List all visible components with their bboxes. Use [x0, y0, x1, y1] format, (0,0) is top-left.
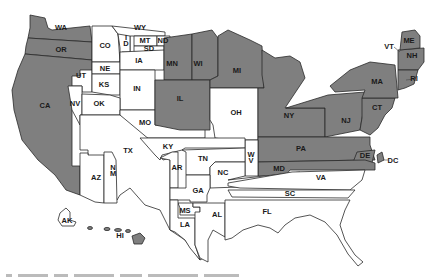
vt-leader-line — [394, 47, 400, 52]
label-az: AZ — [91, 173, 101, 182]
label-ms: MS — [179, 206, 190, 215]
label-la: LA — [180, 220, 191, 229]
label-wa: WA — [55, 23, 68, 32]
label-ak: AK — [62, 216, 73, 225]
label-de: DE — [360, 151, 370, 160]
label-mn: MN — [166, 59, 178, 68]
label-me: ME — [403, 36, 414, 45]
label-ar: AR — [172, 163, 183, 172]
state-fl[interactable] — [225, 200, 363, 266]
label-pa: PA — [296, 144, 306, 153]
state-ma[interactable] — [330, 62, 398, 98]
label-tn: TN — [198, 154, 208, 163]
label-wv-2: V — [248, 156, 253, 165]
state-wi[interactable] — [192, 30, 218, 80]
label-ia: IA — [135, 56, 143, 65]
label-co: CO — [99, 41, 110, 50]
label-tx: TX — [123, 146, 133, 155]
label-ct: CT — [372, 103, 382, 112]
label-oh: OH — [230, 108, 241, 117]
label-ny: NY — [284, 111, 294, 120]
label-dc: DC — [388, 156, 399, 165]
label-wi: WI — [193, 59, 202, 68]
label-mo: MO — [139, 118, 151, 127]
label-al: AL — [212, 210, 222, 219]
label-wy: WY — [134, 23, 146, 32]
label-va: VA — [316, 173, 326, 182]
label-mi: MI — [233, 66, 241, 75]
label-id-2: D — [123, 39, 129, 48]
label-fl: FL — [262, 207, 272, 216]
label-ks: KS — [99, 80, 109, 89]
label-in: IN — [133, 84, 141, 93]
label-ca: CA — [40, 101, 51, 110]
label-nh: NH — [407, 51, 418, 60]
label-nd: ND — [158, 36, 169, 45]
label-or: OR — [55, 45, 67, 54]
label-ne: NE — [100, 64, 110, 73]
label-ut: UT — [76, 71, 86, 80]
label-ri: RI — [410, 74, 418, 83]
label-sd: SD — [144, 44, 155, 53]
label-ma: MA — [371, 77, 383, 86]
label-ok: OK — [93, 99, 105, 108]
label-il: IL — [177, 94, 184, 103]
cropped-caption-fragment — [6, 265, 276, 273]
label-sc: SC — [285, 189, 296, 198]
state-ny[interactable] — [258, 50, 325, 137]
label-md: MD — [273, 164, 285, 173]
label-ga: GA — [192, 186, 204, 195]
label-ky: KY — [163, 142, 173, 151]
label-nj: NJ — [341, 116, 351, 125]
us-map: WA OR CA NV UT AZ N M CO WY I D MT ND SD… — [0, 0, 434, 277]
label-nc: NC — [218, 168, 229, 177]
state-mi[interactable] — [210, 30, 264, 88]
state-il[interactable] — [155, 80, 210, 130]
state-dc[interactable] — [377, 152, 384, 163]
label-nm-2: M — [110, 169, 116, 178]
label-vt: VT — [384, 42, 394, 51]
label-nv: NV — [70, 99, 80, 108]
label-hi: HI — [116, 231, 124, 240]
